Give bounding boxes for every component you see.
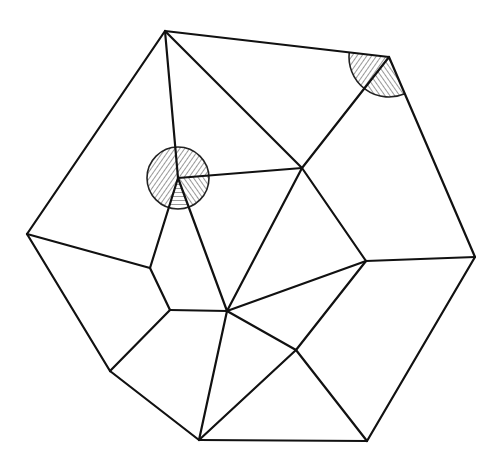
edge-LM <box>150 268 170 310</box>
edge-AB <box>165 31 389 57</box>
edge-KE <box>199 311 227 440</box>
highlighted-angle-markers <box>147 52 405 209</box>
edge-MF <box>110 310 170 371</box>
graph-edges <box>27 31 475 441</box>
edge-NE <box>199 350 296 440</box>
edge-IJ <box>302 168 366 261</box>
edge-ND <box>296 350 367 441</box>
edge-DE <box>199 440 367 441</box>
angle-sector-H <box>175 147 209 178</box>
edge-JC <box>366 257 475 261</box>
edge-CD <box>367 257 475 441</box>
edge-GA <box>27 31 165 234</box>
edge-BC <box>389 57 475 257</box>
edge-BI <box>302 57 389 168</box>
planar-graph-diagram <box>0 0 504 463</box>
edge-KN <box>227 311 296 350</box>
edge-IK <box>227 168 302 311</box>
edge-EF <box>110 371 199 440</box>
edge-MK <box>170 310 227 311</box>
